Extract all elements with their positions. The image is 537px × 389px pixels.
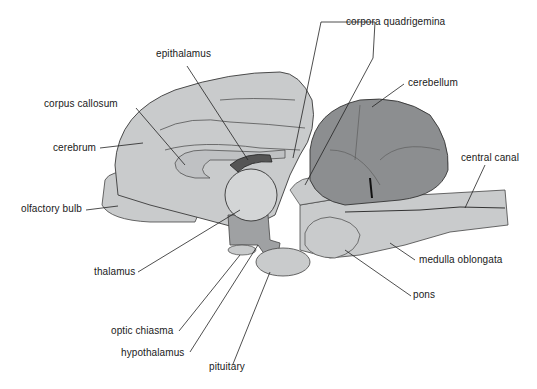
thalamus-shape [225,169,277,221]
label-pons: pons [413,289,435,300]
label-hypothalamus: hypothalamus [121,347,184,358]
label-cerebellum: cerebellum [408,77,458,88]
cerebellum-shape [310,99,448,205]
label-cerebrum: cerebrum [53,142,96,153]
leader-pituitary [233,272,270,364]
leader-pons [345,250,411,296]
label-medulla-oblongata: medulla oblongata [419,254,502,265]
label-central-canal: central canal [461,152,519,163]
label-thalamus: thalamus [94,266,135,277]
label-corpora-quadrigemina: corpora quadrigemina [346,16,445,27]
label-epithalamus: epithalamus [156,48,211,59]
leader-hypothalamus [190,245,258,352]
label-pituitary: pituitary [209,361,245,372]
optic-chiasma-shape [228,245,256,255]
label-corpus-callosum: corpus callosum [44,98,118,109]
label-optic-chiasma: optic chiasma [111,325,173,336]
label-olfactory-bulb: olfactory bulb [21,203,82,214]
brain-diagram [0,0,537,389]
leader-optic-chiasma [179,255,240,331]
pituitary-shape [256,248,310,276]
